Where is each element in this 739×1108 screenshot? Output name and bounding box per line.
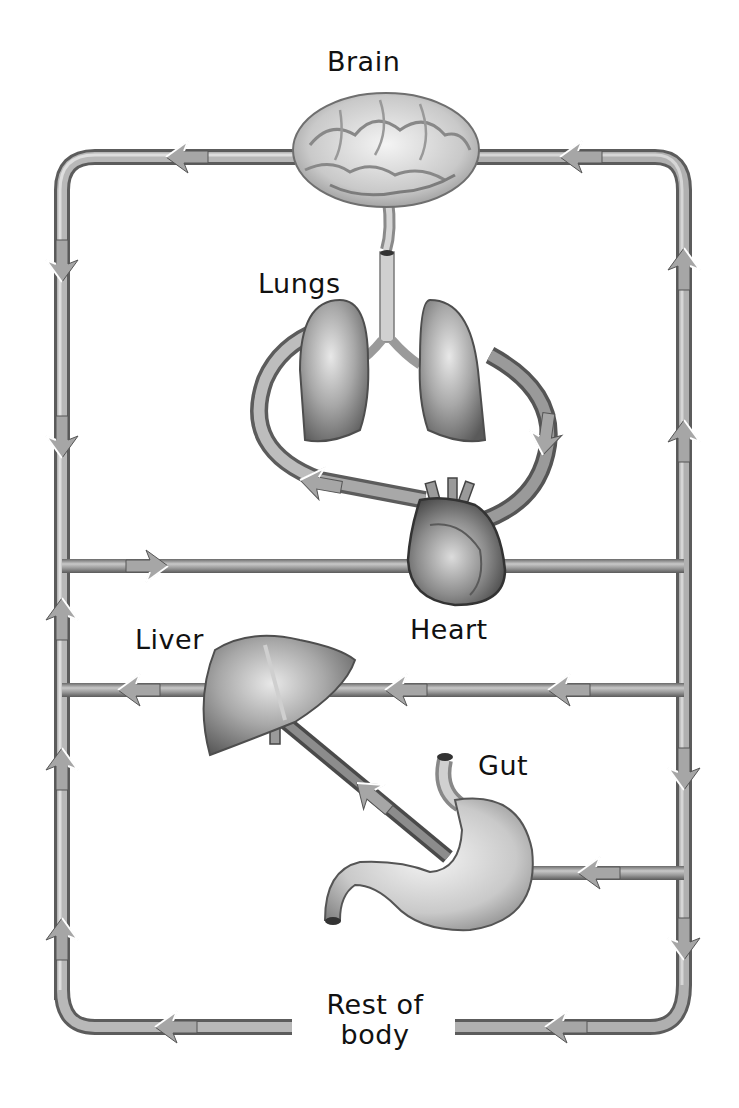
heart-label: Heart — [410, 616, 488, 643]
flow-arrows — [46, 141, 700, 1043]
brain-label: Brain — [327, 48, 400, 75]
gut-label: Gut — [478, 752, 528, 779]
outer-vessels — [60, 155, 684, 1027]
brain-icon — [293, 93, 479, 250]
liver-label: Liver — [135, 626, 204, 653]
rest-of-body-label: Rest of body — [300, 990, 450, 1049]
lungs-label: Lungs — [258, 270, 341, 297]
rest-of-body-line2: body — [300, 1020, 450, 1050]
circulation-diagram — [0, 0, 739, 1108]
rest-of-body-line1: Rest of — [300, 990, 450, 1020]
